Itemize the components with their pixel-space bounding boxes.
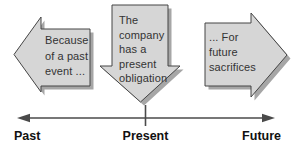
down-arrow-line: The [119,13,171,28]
timeline-label-present: Present [115,129,176,143]
right-arrow-line: ... For [209,30,255,45]
right-arrow-line: sacrifices [209,60,255,75]
timeline-label-past: Past [14,129,40,143]
left-arrow-line: Because [45,33,91,49]
liabilities-timeline-diagram: Because of a past event ... The company … [0,0,292,150]
left-arrow-line: event ... [45,64,91,80]
timeline-left-arrowhead [17,114,30,122]
right-arrow-line: future [209,45,255,60]
right-arrow-text: ... For future sacrifices [209,30,255,75]
down-arrow-text: The company has a present obligation [119,13,171,86]
left-arrow-text: Because of a past event ... [45,33,91,80]
down-arrow-line: obligation [119,71,171,86]
left-arrow-line: of a past [45,49,91,65]
timeline-label-future: Future [237,129,281,143]
timeline-right-arrowhead [262,114,275,122]
down-arrow-line: company [119,28,171,43]
down-arrow-line: has a [119,42,171,57]
down-arrow-line: present [119,57,171,72]
